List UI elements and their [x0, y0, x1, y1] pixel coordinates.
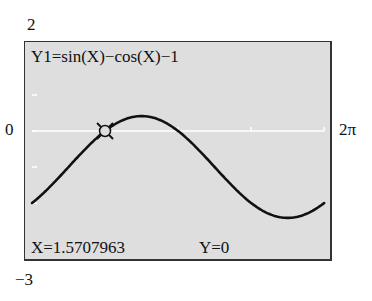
cursor-y-readout: Y=0 [199, 239, 229, 256]
function-label: Y1=sin(X)−cos(X)−1 [31, 48, 179, 65]
x-max-label: 2π [339, 121, 356, 138]
calculator-graph-screen: Y1=sin(X)−cos(X)−1 X=1.5707963 Y=0 [24, 41, 332, 261]
cursor-x-readout: X=1.5707963 [31, 239, 125, 256]
x-min-label: 0 [5, 121, 14, 138]
y-min-label: −3 [15, 271, 33, 288]
trace-cursor-icon [97, 123, 113, 139]
y-max-label: 2 [27, 16, 36, 33]
x-axis [32, 95, 324, 203]
graph-plot [25, 42, 330, 259]
